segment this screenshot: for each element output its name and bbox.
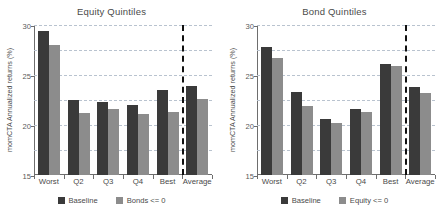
legend-label: Bonds <= 0 (127, 196, 166, 205)
chart-title-left: Equity Quintiles (0, 6, 223, 17)
bar-best-alt (168, 112, 179, 175)
bar-groups-left (34, 25, 212, 175)
legend-label: Baseline (69, 196, 98, 205)
bar-best-baseline (380, 64, 391, 176)
bar-average-alt (420, 93, 431, 175)
bar-best-alt (391, 66, 402, 175)
bar-group-best (153, 25, 183, 175)
x-axis-label-q4: Q4 (123, 177, 153, 186)
x-axis-label-worst: Worst (34, 177, 64, 186)
bar-q3-alt (108, 109, 119, 175)
bar-group-q3 (316, 25, 346, 175)
bar-q3-alt (331, 123, 342, 176)
x-axis-labels-left: WorstQ2Q3Q4BestAverage (34, 177, 212, 186)
average-separator-right (405, 25, 407, 175)
bar-worst-baseline (261, 47, 272, 175)
x-tick-mark-end (212, 175, 213, 179)
legend-swatch-icon (339, 197, 346, 204)
bar-group-q3 (93, 25, 123, 175)
y-tick-label-25: 25 (23, 72, 31, 81)
bar-average-alt (197, 99, 208, 175)
bar-group-worst (257, 25, 287, 175)
bar-q4-alt (138, 114, 149, 176)
y-axis-label-right-text: momCTA Annualized returns (%) (228, 48, 237, 152)
x-tick-mark-end (435, 175, 436, 179)
bar-group-q4 (346, 25, 376, 175)
legend-left: BaselineBonds <= 0 (0, 196, 223, 205)
bar-q2-alt (79, 113, 90, 175)
x-axis-label-average: Average (182, 177, 212, 186)
chart-page: Equity Quintiles momCTA Annualized retur… (0, 0, 446, 219)
bar-q2-baseline (291, 92, 302, 175)
bar-group-q2 (64, 25, 94, 175)
x-axis-labels-right: WorstQ2Q3Q4BestAverage (257, 177, 435, 186)
bar-groups-right (257, 25, 435, 175)
y-tick-label-15: 15 (246, 172, 254, 181)
legend-swatch-icon (116, 197, 123, 204)
bar-q2-alt (302, 106, 313, 176)
x-axis-label-best: Best (376, 177, 406, 186)
y-tick-label-25: 25 (246, 72, 254, 81)
bar-q3-baseline (97, 102, 108, 176)
legend-swatch-icon (58, 197, 65, 204)
y-tick-label-15: 15 (23, 172, 31, 181)
y-tick-label-30: 30 (246, 22, 254, 31)
bar-group-best (376, 25, 406, 175)
chart-panel-bond-quintiles: Bond Quintiles momCTA Annualized returns… (223, 0, 446, 219)
plot-area-right: 051015202530 (257, 25, 435, 175)
y-tick-label-30: 30 (23, 22, 31, 31)
x-axis-label-q3: Q3 (316, 177, 346, 186)
bar-q4-alt (361, 112, 372, 175)
y-axis-label-left: momCTA Annualized returns (%) (2, 0, 16, 219)
bar-q4-baseline (350, 109, 361, 176)
bar-group-worst (34, 25, 64, 175)
bar-worst-alt (272, 58, 283, 175)
bar-q3-baseline (320, 119, 331, 176)
legend-item-baseline[interactable]: Baseline (281, 196, 321, 205)
legend-label: Equity <= 0 (350, 196, 388, 205)
bar-group-average (405, 25, 435, 175)
bar-group-q4 (123, 25, 153, 175)
chart-title-right: Bond Quintiles (223, 6, 446, 17)
x-axis-label-q2: Q2 (64, 177, 94, 186)
x-axis-label-q4: Q4 (346, 177, 376, 186)
average-separator-left (182, 25, 184, 175)
legend-right: BaselineEquity <= 0 (223, 196, 446, 205)
y-tick-label-20: 20 (23, 122, 31, 131)
chart-panel-equity-quintiles: Equity Quintiles momCTA Annualized retur… (0, 0, 223, 219)
bar-best-baseline (157, 90, 168, 176)
bar-group-average (182, 25, 212, 175)
bar-worst-baseline (38, 31, 49, 175)
y-tick-label-20: 20 (246, 122, 254, 131)
bar-q4-baseline (127, 105, 138, 175)
x-axis-label-q2: Q2 (287, 177, 317, 186)
bar-worst-alt (49, 45, 60, 176)
bar-group-q2 (287, 25, 317, 175)
x-axis-label-worst: Worst (257, 177, 287, 186)
legend-swatch-icon (281, 197, 288, 204)
legend-label: Baseline (292, 196, 321, 205)
x-axis-label-best: Best (153, 177, 183, 186)
legend-item-alt[interactable]: Bonds <= 0 (116, 196, 166, 205)
plot-area-left: 051015202530 (34, 25, 212, 175)
bar-average-baseline (186, 86, 197, 175)
legend-item-baseline[interactable]: Baseline (58, 196, 98, 205)
bar-q2-baseline (68, 100, 79, 176)
bar-average-baseline (409, 87, 420, 176)
y-axis-label-left-text: momCTA Annualized returns (%) (5, 48, 14, 152)
legend-item-alt[interactable]: Equity <= 0 (339, 196, 388, 205)
x-axis-label-average: Average (405, 177, 435, 186)
y-axis-label-right: momCTA Annualized returns (%) (225, 0, 239, 219)
x-axis-label-q3: Q3 (93, 177, 123, 186)
